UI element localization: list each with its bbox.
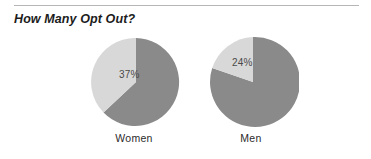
chart-title: How Many Opt Out?	[14, 12, 135, 26]
pie-chart-men: 24% Men	[207, 36, 299, 128]
pie-value-women: 37%	[119, 69, 140, 80]
header-rule	[14, 5, 359, 6]
pie-label-men: Men	[205, 132, 297, 144]
pie-svg-men: 24%	[207, 36, 299, 128]
pie-value-men: 24%	[232, 57, 253, 68]
pie-chart-area: 37% Women 24% Men	[0, 36, 371, 159]
pie-svg-women: 37%	[90, 36, 182, 128]
pie-label-women: Women	[84, 132, 184, 144]
pie-chart-women: 37% Women	[90, 36, 182, 128]
